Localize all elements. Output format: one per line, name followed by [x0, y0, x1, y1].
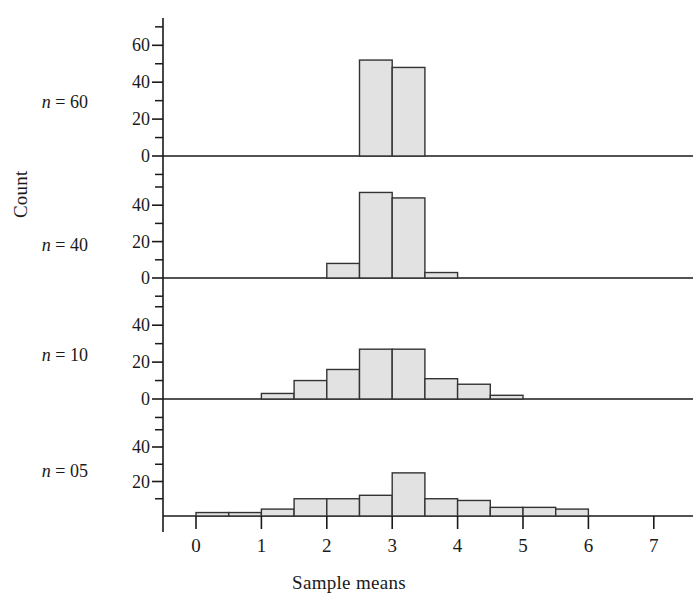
histogram-bar — [556, 509, 589, 516]
histogram-bar — [294, 381, 327, 399]
histogram-bar — [327, 499, 360, 516]
y-tick-label: 20 — [108, 473, 150, 491]
panel-10 — [152, 307, 693, 418]
histogram-bar — [392, 198, 425, 278]
histogram-bar — [261, 509, 294, 516]
histogram-bar — [327, 263, 360, 278]
panel-label-variable: n — [42, 461, 51, 481]
histogram-bar — [392, 67, 425, 156]
panel-60 — [152, 27, 693, 175]
x-tick-label: 0 — [184, 536, 208, 555]
histogram-bar — [392, 349, 425, 399]
y-tick-label: 20 — [108, 353, 150, 371]
panel-40 — [152, 187, 693, 296]
x-tick-label: 2 — [315, 536, 339, 555]
panel-label-60: n = 60 — [0, 92, 88, 113]
panel-label-value: = 10 — [51, 345, 88, 365]
x-tick-label: 3 — [380, 536, 404, 555]
x-tick-label: 5 — [511, 536, 535, 555]
histogram-bar — [490, 395, 523, 399]
histogram-bar — [261, 393, 294, 399]
x-tick-label: 7 — [642, 536, 666, 555]
panel-label-05: n = 05 — [0, 461, 88, 482]
y-tick-label: 0 — [108, 269, 150, 287]
panel-label-value: = 05 — [51, 461, 88, 481]
histogram-bar — [196, 513, 229, 516]
histogram-bar — [425, 499, 458, 516]
histogram-bar — [392, 473, 425, 516]
panel-label-40: n = 40 — [0, 235, 88, 256]
y-tick-label: 40 — [108, 196, 150, 214]
histogram-bar — [425, 273, 458, 278]
histogram-bar — [458, 500, 491, 516]
histogram-bar — [229, 513, 262, 516]
panel-label-variable: n — [42, 92, 51, 112]
histogram-bar — [360, 495, 393, 516]
x-tick-label: 1 — [249, 536, 273, 555]
histogram-bar — [360, 60, 393, 156]
y-tick-label: 40 — [108, 438, 150, 456]
histogram-bar — [360, 192, 393, 278]
histogram-bar — [360, 349, 393, 399]
y-tick-label: 40 — [108, 316, 150, 334]
histogram-bar — [523, 507, 556, 516]
plot-canvas — [0, 0, 698, 601]
panel-label-variable: n — [42, 345, 51, 365]
panel-label-10: n = 10 — [0, 345, 88, 366]
y-tick-label: 0 — [108, 147, 150, 165]
x-tick-label: 4 — [446, 536, 470, 555]
histogram-bar — [425, 379, 458, 399]
panel-label-value: = 40 — [51, 235, 88, 255]
x-tick-label: 6 — [576, 536, 600, 555]
y-tick-label: 0 — [108, 390, 150, 408]
panel-05 — [152, 430, 693, 516]
panel-label-value: = 60 — [51, 92, 88, 112]
histogram-bar — [458, 384, 491, 399]
histogram-figure: Count Sample means 0204060n = 6002040n =… — [0, 0, 698, 601]
histogram-bar — [294, 499, 327, 516]
histogram-bar — [327, 369, 360, 399]
y-tick-label: 40 — [108, 73, 150, 91]
y-tick-label: 20 — [108, 233, 150, 251]
panel-label-variable: n — [42, 235, 51, 255]
histogram-bar — [490, 507, 523, 516]
y-tick-label: 20 — [108, 110, 150, 128]
y-tick-label: 60 — [108, 36, 150, 54]
